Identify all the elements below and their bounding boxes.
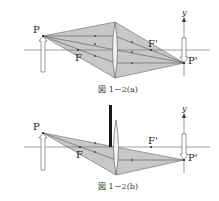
label-P: P xyxy=(33,24,40,35)
figure-a: P F F' P' y 図 1－2(a) xyxy=(24,8,210,94)
caption-figure-a: 図 1－2(a) xyxy=(98,85,138,94)
focal-point-back xyxy=(150,146,152,148)
focal-point-front xyxy=(79,146,81,148)
image-point xyxy=(183,159,185,161)
label-F-prime: F' xyxy=(148,135,158,146)
object-point xyxy=(42,35,44,37)
label-y-axis: y xyxy=(181,104,187,113)
lens-imaging-diagram: P F F' P' y 図 1－2(a) P F F' P' xyxy=(0,0,219,201)
object-arrow-icon xyxy=(39,36,47,72)
image-arrow-icon xyxy=(180,38,188,63)
label-F: F xyxy=(75,52,82,63)
object-point xyxy=(42,132,44,134)
label-P-prime: P' xyxy=(188,152,197,163)
y-axis-arrowhead-icon xyxy=(182,113,186,118)
focal-point-front xyxy=(77,49,79,51)
label-P: P xyxy=(33,121,40,132)
figure-b: P F F' P' y 図 1－2(b) xyxy=(24,104,210,191)
label-F: F xyxy=(76,149,83,160)
image-point xyxy=(183,62,185,64)
caption-figure-b: 図 1－2(b) xyxy=(98,182,138,191)
aperture-stop-bar xyxy=(109,105,112,147)
label-y-axis: y xyxy=(181,8,187,17)
focal-point-back xyxy=(150,49,152,51)
label-F-prime: F' xyxy=(148,38,158,49)
ray-bundle-after-lens-partial xyxy=(116,147,184,175)
label-P-prime: P' xyxy=(188,55,197,66)
object-arrow-icon xyxy=(39,133,47,170)
y-axis-arrowhead-icon xyxy=(182,17,186,22)
